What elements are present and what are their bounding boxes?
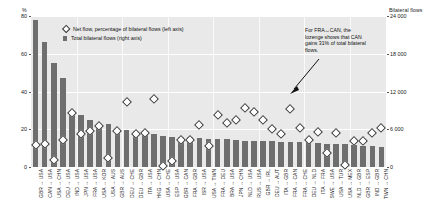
category-label: USA ↔ KOR bbox=[101, 169, 107, 198]
tick-mark bbox=[29, 54, 31, 55]
category-label: DEU ↔ AUT bbox=[274, 169, 280, 197]
category-label: FRA ↔ GBR bbox=[192, 169, 198, 197]
net-flow-lozenge bbox=[313, 126, 322, 135]
annotation-arrow-icon bbox=[287, 57, 321, 97]
bar bbox=[288, 142, 294, 167]
tick-mark bbox=[387, 129, 389, 130]
bar bbox=[151, 134, 157, 167]
lozenge-icon bbox=[62, 25, 71, 34]
left-tick-label: 60 bbox=[0, 51, 27, 57]
net-flow-lozenge bbox=[277, 129, 286, 138]
bar bbox=[370, 146, 376, 167]
net-flow-lozenge bbox=[359, 136, 368, 145]
category-label: ITA ↔ USA bbox=[147, 169, 153, 194]
bar bbox=[360, 146, 366, 167]
category-label: USA ↔ TWN bbox=[211, 169, 217, 198]
bar bbox=[351, 145, 357, 167]
net-flow-lozenge bbox=[149, 94, 158, 103]
category-label: GBR ↔ IRL bbox=[265, 169, 271, 195]
legend-label-net-flow: Net flow, percentage of bilateral flows … bbox=[73, 26, 184, 32]
category-label: USA ↔ MEX bbox=[347, 169, 353, 198]
bar bbox=[96, 124, 102, 167]
bar bbox=[306, 142, 312, 167]
bar bbox=[333, 144, 339, 167]
category-label: FRA ↔ CAN bbox=[292, 169, 298, 197]
category-label: ITA ↔ FRA bbox=[320, 169, 326, 194]
legend-item-net-flow: Net flow, percentage of bilateral flows … bbox=[62, 26, 184, 32]
tick-mark bbox=[29, 129, 31, 130]
annotation-text: For FRA↔CAN, the lozenge shows that CAN … bbox=[305, 27, 367, 53]
bar bbox=[233, 140, 239, 167]
legend-item-total-flows: Total bilateral flows (right axis) bbox=[62, 35, 184, 41]
bar bbox=[297, 142, 303, 167]
category-label: USA ↔ TUR bbox=[338, 169, 344, 197]
category-label: BRA ↔ USA bbox=[229, 169, 235, 197]
bar bbox=[224, 139, 230, 167]
chart-container: % Bilateral flows 020406080 06 00012 000… bbox=[0, 0, 430, 218]
bar bbox=[215, 139, 221, 167]
net-flow-lozenge bbox=[268, 124, 277, 133]
bar bbox=[124, 130, 130, 167]
right-tick-label: 6 000 bbox=[390, 126, 424, 132]
gridline bbox=[31, 92, 386, 93]
left-tick-label: 40 bbox=[0, 89, 27, 95]
right-tick-label: 0 bbox=[390, 164, 424, 170]
tick-mark bbox=[29, 92, 31, 93]
bar bbox=[51, 63, 57, 167]
category-label: DEU ↔ GBR bbox=[138, 169, 144, 198]
category-label: GBR ↔ ESP bbox=[365, 169, 371, 198]
category-label: ITA ↔ GBR bbox=[283, 169, 289, 195]
bar bbox=[60, 78, 66, 167]
category-label: ISR ↔ USA bbox=[201, 169, 207, 195]
left-tick-label: 80 bbox=[0, 13, 27, 19]
bar bbox=[242, 141, 248, 167]
net-flow-lozenge bbox=[249, 107, 258, 116]
category-label: JPN ↔ USA bbox=[83, 169, 89, 197]
bar bbox=[251, 141, 257, 167]
net-flow-lozenge bbox=[377, 123, 386, 132]
category-label: SWE ↔ USA bbox=[329, 169, 335, 198]
category-label: GBR ↔ AUS bbox=[119, 169, 125, 198]
category-label: DEU ↔ USA bbox=[65, 169, 71, 198]
tick-mark bbox=[387, 54, 389, 55]
bar bbox=[315, 143, 321, 167]
bar bbox=[269, 141, 275, 167]
category-label: NLD ↔ USA bbox=[247, 169, 253, 197]
net-flow-lozenge bbox=[295, 123, 304, 132]
category-label: FRA ↔ USA bbox=[92, 169, 98, 197]
category-label: CAN ↔ USA bbox=[47, 169, 53, 198]
bar-swatch-icon bbox=[63, 36, 67, 40]
category-label: HKG ↔ CHN bbox=[156, 169, 162, 198]
category-label: FRA ↔ CHE bbox=[302, 169, 308, 197]
category-label: NLD ↔ GBR bbox=[356, 169, 362, 198]
net-flow-lozenge bbox=[231, 115, 240, 124]
category-label: TWN ↔ CHN bbox=[383, 169, 389, 199]
left-tick-label: 20 bbox=[0, 126, 27, 132]
tick-mark bbox=[387, 167, 389, 168]
net-flow-lozenge bbox=[195, 120, 204, 129]
category-label: GBR ↔ CAN bbox=[183, 169, 189, 198]
category-label: USA ↔ AUS bbox=[110, 169, 116, 197]
category-label: USA ↔ CHE bbox=[165, 169, 171, 197]
net-flow-lozenge bbox=[222, 118, 231, 127]
bar bbox=[260, 141, 266, 167]
bar bbox=[278, 142, 284, 167]
right-tick-label: 24 000 bbox=[390, 13, 424, 19]
net-flow-lozenge bbox=[122, 97, 131, 106]
bar bbox=[379, 147, 385, 167]
bar bbox=[78, 115, 84, 167]
net-flow-lozenge bbox=[286, 104, 295, 113]
bar bbox=[197, 138, 203, 167]
category-label: IND ↔ GBR bbox=[374, 169, 380, 196]
chart-legend: Net flow, percentage of bilateral flows … bbox=[62, 26, 184, 44]
net-flow-lozenge bbox=[258, 115, 267, 124]
category-label: FRA ↔ DEU bbox=[220, 169, 226, 197]
category-label: DEU ↔ NLD bbox=[311, 169, 317, 197]
right-tick-label: 18 000 bbox=[390, 51, 424, 57]
category-label: USA ↔ CHN bbox=[56, 169, 62, 198]
gridline bbox=[31, 16, 386, 17]
net-flow-lozenge bbox=[213, 109, 222, 118]
left-tick-label: 0 bbox=[0, 164, 27, 170]
category-label: RUS ↔ USA bbox=[256, 169, 262, 198]
category-label: ESP ↔ USA bbox=[174, 169, 180, 197]
